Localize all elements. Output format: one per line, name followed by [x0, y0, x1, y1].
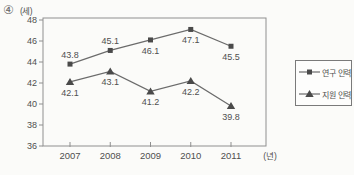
legend-label: 지원 인력	[322, 89, 351, 100]
y-axis-tick-label: 46	[27, 36, 37, 46]
x-axis-tick-label: 2010	[180, 150, 201, 161]
data-label: 42.1	[61, 88, 79, 98]
square-marker-icon	[148, 37, 153, 42]
legend-item: 연구 인력	[299, 67, 351, 78]
x-axis-unit-label: (년)	[263, 151, 277, 161]
square-marker-icon	[229, 44, 234, 49]
y-axis-tick-label: 48	[27, 15, 37, 25]
y-axis-tick-label: 42	[27, 78, 37, 88]
legend-item: 지원 인력	[299, 89, 351, 100]
x-axis-tick-label: 2007	[59, 150, 80, 161]
legend-label: 연구 인력	[322, 67, 351, 78]
triangle-marker-icon	[106, 67, 114, 74]
figure-container: ④ (세) 4846444240383620072008200920102011…	[0, 0, 354, 175]
data-label: 45.1	[101, 36, 119, 46]
y-axis-tick-label: 40	[27, 99, 37, 109]
triangle-marker-icon	[227, 102, 235, 109]
data-label: 43.1	[101, 77, 119, 87]
data-label: 45.5	[222, 52, 240, 62]
square-marker-icon	[188, 27, 193, 32]
data-label: 42.2	[182, 87, 200, 97]
x-axis-tick-label: 2011	[221, 150, 241, 161]
data-label: 47.1	[182, 35, 200, 45]
legend-square-marker-icon	[299, 67, 320, 77]
x-axis-tick-label: 2009	[140, 150, 161, 161]
legend-triangle-marker-icon	[299, 89, 320, 99]
triangle-marker-icon	[187, 77, 195, 84]
data-label: 43.8	[61, 50, 79, 60]
square-marker-icon	[68, 62, 73, 67]
data-label: 39.8	[222, 112, 240, 122]
y-axis-tick-label: 38	[27, 120, 37, 130]
chart-legend: 연구 인력지원 인력	[295, 60, 352, 106]
y-axis-tick-label: 36	[27, 141, 37, 151]
data-label: 41.2	[142, 97, 160, 107]
x-axis-tick-label: 2008	[100, 150, 121, 161]
y-axis-tick-label: 44	[27, 57, 37, 67]
data-label: 46.1	[142, 46, 160, 56]
square-marker-icon	[108, 48, 113, 53]
plot-border	[43, 18, 266, 146]
